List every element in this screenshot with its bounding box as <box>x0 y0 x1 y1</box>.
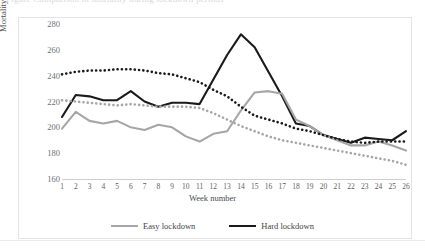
y-tick-180: 180 <box>47 149 60 158</box>
y-tick-200: 200 <box>47 123 60 132</box>
x-axis-title: Week number <box>0 193 425 203</box>
x-tick-22: 22 <box>344 182 358 191</box>
x-tick-4: 4 <box>96 182 110 191</box>
x-tick-11: 11 <box>193 182 207 191</box>
x-tick-20: 20 <box>316 182 330 191</box>
x-tick-17: 17 <box>275 182 289 191</box>
x-tick-14: 14 <box>234 182 248 191</box>
y-tick-280: 280 <box>47 20 60 29</box>
x-tick-3: 3 <box>83 182 97 191</box>
y-tick-260: 260 <box>47 46 60 55</box>
x-tick-15: 15 <box>248 182 262 191</box>
x-tick-19: 19 <box>303 182 317 191</box>
x-tick-9: 9 <box>165 182 179 191</box>
figure-caption-text: Figure Comparison of mortality during lo… <box>6 0 425 4</box>
x-tick-12: 12 <box>206 182 220 191</box>
legend-item-hard-lockdown[interactable]: Hard lockdown <box>229 221 314 231</box>
x-tick-18: 18 <box>289 182 303 191</box>
x-tick-6: 6 <box>124 182 138 191</box>
figure-caption-clipped: Figure Comparison of mortality during lo… <box>0 0 425 12</box>
series-line <box>62 34 406 143</box>
legend-label: Easy lockdown <box>143 221 195 231</box>
series-line <box>62 100 406 165</box>
x-tick-13: 13 <box>220 182 234 191</box>
x-tick-23: 23 <box>358 182 372 191</box>
y-tick-240: 240 <box>47 72 60 81</box>
x-axis-line <box>62 179 406 180</box>
legend-label: Hard lockdown <box>261 221 314 231</box>
x-tick-7: 7 <box>138 182 152 191</box>
chart-legend: Easy lockdownHard lockdown <box>0 219 425 233</box>
series-canvas <box>62 24 406 179</box>
x-tick-21: 21 <box>330 182 344 191</box>
legend-swatch-icon <box>111 225 138 227</box>
y-tick-220: 220 <box>47 98 60 107</box>
x-tick-26: 26 <box>399 182 413 191</box>
legend-item-easy-lockdown[interactable]: Easy lockdown <box>111 221 195 231</box>
figure-container: Figure Comparison of mortality during lo… <box>0 0 425 249</box>
y-axis-title: Mortality per million <box>0 0 8 56</box>
x-tick-8: 8 <box>151 182 165 191</box>
x-tick-2: 2 <box>69 182 83 191</box>
figure-bottom-rule <box>0 240 425 241</box>
x-tick-24: 24 <box>371 182 385 191</box>
x-tick-25: 25 <box>385 182 399 191</box>
x-tick-1: 1 <box>55 182 69 191</box>
x-tick-5: 5 <box>110 182 124 191</box>
legend-swatch-icon <box>229 225 256 227</box>
plot-area <box>62 24 406 179</box>
x-tick-16: 16 <box>261 182 275 191</box>
x-tick-10: 10 <box>179 182 193 191</box>
